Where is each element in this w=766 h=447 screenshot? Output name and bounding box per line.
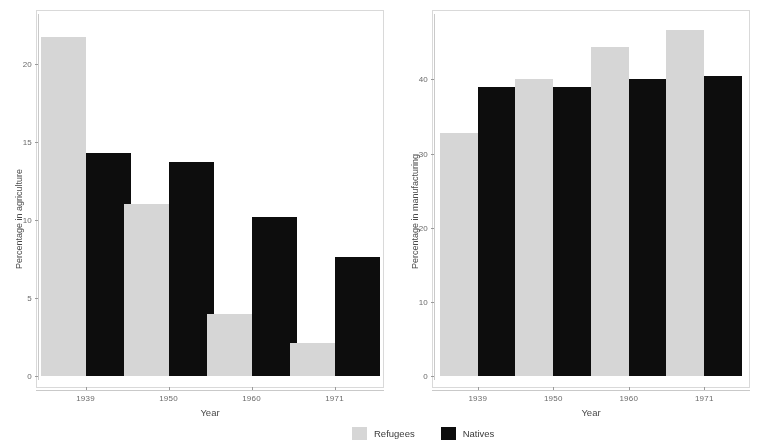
- x-tick-manufacturing-1960: [629, 387, 630, 390]
- refugees-swatch-icon: [352, 427, 367, 440]
- x-tick-label-agriculture: 1950: [159, 394, 178, 403]
- x-tick-manufacturing-1939: [478, 387, 479, 390]
- y-tick-label-manufacturing: 0: [408, 372, 428, 381]
- y-tick-agriculture-20: [35, 64, 38, 65]
- y-tick-manufacturing-30: [431, 154, 434, 155]
- chart-panel-manufacturing: 010203040 1939195019601971 Percentage in…: [380, 0, 766, 430]
- x-tick-label-agriculture: 1939: [76, 394, 95, 403]
- y-tick-label-agriculture: 20: [12, 59, 32, 68]
- x-axis-line-manufacturing: [432, 390, 750, 391]
- bar-agriculture-refugees-1960: [207, 314, 252, 376]
- bar-manufacturing-refugees-1971: [666, 30, 704, 376]
- bar-manufacturing-natives-1971: [704, 76, 742, 376]
- bars-layer-agriculture: [0, 0, 390, 430]
- y-tick-agriculture-0: [35, 376, 38, 377]
- x-tick-agriculture-1971: [335, 387, 336, 390]
- natives-swatch-icon: [441, 427, 456, 440]
- y-axis-line-agriculture: [38, 14, 39, 380]
- x-axis-title-agriculture: Year: [200, 407, 219, 418]
- y-tick-label-agriculture: 5: [12, 293, 32, 302]
- legend-label-natives: Natives: [463, 428, 495, 439]
- y-tick-manufacturing-20: [431, 228, 434, 229]
- bar-agriculture-refugees-1971: [290, 343, 335, 376]
- bars-layer-manufacturing: [380, 0, 766, 430]
- legend-label-refugees: Refugees: [374, 428, 415, 439]
- y-tick-agriculture-10: [35, 220, 38, 221]
- x-tick-label-manufacturing: 1960: [619, 394, 638, 403]
- bar-manufacturing-refugees-1939: [440, 133, 478, 376]
- x-tick-agriculture-1960: [252, 387, 253, 390]
- x-axis-title-manufacturing: Year: [581, 407, 600, 418]
- y-axis-line-manufacturing: [434, 14, 435, 380]
- y-tick-label-manufacturing: 40: [408, 75, 428, 84]
- y-axis-title-agriculture: Percentage in agriculture: [14, 169, 24, 269]
- bar-agriculture-refugees-1950: [124, 204, 169, 376]
- y-tick-agriculture-15: [35, 142, 38, 143]
- bar-manufacturing-refugees-1950: [515, 79, 553, 376]
- x-tick-label-manufacturing: 1939: [468, 394, 487, 403]
- chart-panel-agriculture: 05101520 1939195019601971 Percentage in …: [0, 0, 390, 430]
- figure-bar-chart-pair: 05101520 1939195019601971 Percentage in …: [0, 0, 766, 447]
- chart-legend: RefugeesNatives: [352, 425, 494, 441]
- x-tick-agriculture-1950: [169, 387, 170, 390]
- y-tick-manufacturing-40: [431, 79, 434, 80]
- x-tick-label-manufacturing: 1950: [544, 394, 563, 403]
- y-tick-label-manufacturing: 10: [408, 297, 428, 306]
- bar-manufacturing-natives-1939: [478, 87, 516, 376]
- y-tick-label-agriculture: 0: [12, 372, 32, 381]
- x-tick-label-agriculture: 1960: [242, 394, 261, 403]
- y-tick-agriculture-5: [35, 298, 38, 299]
- x-axis-line-agriculture: [36, 390, 384, 391]
- y-tick-manufacturing-10: [431, 302, 434, 303]
- y-axis-title-manufacturing: Percentage in manufacturing: [410, 154, 420, 269]
- x-tick-manufacturing-1971: [704, 387, 705, 390]
- y-tick-label-agriculture: 15: [12, 137, 32, 146]
- bar-agriculture-refugees-1939: [41, 37, 86, 376]
- legend-item-refugees[interactable]: Refugees: [352, 427, 415, 440]
- y-tick-manufacturing-0: [431, 376, 434, 377]
- x-tick-manufacturing-1950: [553, 387, 554, 390]
- bar-agriculture-natives-1971: [335, 257, 380, 376]
- x-tick-agriculture-1939: [86, 387, 87, 390]
- bar-manufacturing-natives-1950: [553, 87, 591, 376]
- x-tick-label-manufacturing: 1971: [695, 394, 714, 403]
- x-tick-label-agriculture: 1971: [325, 394, 344, 403]
- bar-manufacturing-natives-1960: [629, 79, 667, 376]
- bar-manufacturing-refugees-1960: [591, 47, 629, 376]
- legend-item-natives[interactable]: Natives: [441, 427, 495, 440]
